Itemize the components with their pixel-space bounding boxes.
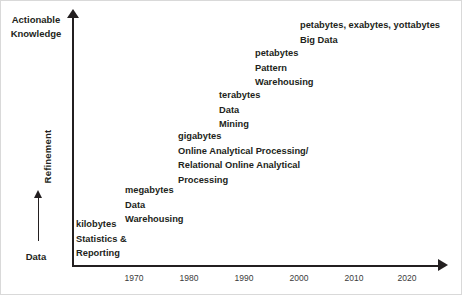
stage-petabytes-line-1: petabytes bbox=[255, 46, 314, 61]
x-tick-2000: 2000 bbox=[290, 273, 309, 283]
x-tick-1970: 1970 bbox=[125, 273, 144, 283]
stage-bigdata: petabytes, exabytes, yottabytes Big Data bbox=[300, 18, 440, 47]
stage-gigabytes-line-4: Processing bbox=[178, 173, 308, 188]
stage-megabytes: megabytes Data Warehousing bbox=[125, 183, 184, 227]
stage-megabytes-line-3: Warehousing bbox=[125, 212, 184, 227]
stage-terabytes-line-3: Mining bbox=[219, 117, 260, 132]
data-refinement-timeline-figure: Actionable Knowledge Data Refinement kil… bbox=[0, 0, 462, 295]
stage-petabytes-line-3: Warehousing bbox=[255, 75, 314, 90]
stage-kilobytes-line-3: Reporting bbox=[76, 246, 127, 261]
x-tick-2020: 2020 bbox=[398, 273, 417, 283]
y-axis-top-label-line-1: Actionable bbox=[12, 14, 61, 25]
stage-gigabytes: gigabytes Online Analytical Processing/ … bbox=[178, 129, 308, 187]
stage-terabytes: terabytes Data Mining bbox=[219, 88, 260, 132]
x-axis-line bbox=[72, 265, 440, 267]
x-tick-1990: 1990 bbox=[235, 273, 254, 283]
refinement-arrow-icon bbox=[34, 190, 42, 198]
stage-gigabytes-line-3: Relational Online Analytical bbox=[178, 158, 308, 173]
stage-terabytes-line-1: terabytes bbox=[219, 88, 260, 103]
stage-gigabytes-line-2: Online Analytical Processing/ bbox=[178, 144, 308, 159]
stage-kilobytes-line-2: Statistics & bbox=[76, 232, 127, 247]
y-axis-bottom-label: Data bbox=[7, 251, 65, 262]
x-tick-1980: 1980 bbox=[180, 273, 199, 283]
refinement-arrow-shaft bbox=[38, 197, 39, 241]
stage-kilobytes: kilobytes Statistics & Reporting bbox=[76, 217, 127, 261]
stage-terabytes-line-2: Data bbox=[219, 103, 260, 118]
y-axis-top-label: Actionable Knowledge bbox=[7, 13, 65, 40]
x-tick-2010: 2010 bbox=[345, 273, 364, 283]
stage-petabytes-line-2: Pattern bbox=[255, 61, 314, 76]
y-axis-line bbox=[72, 17, 74, 267]
stage-bigdata-line-2: Big Data bbox=[300, 33, 440, 48]
y-axis-top-label-line-2: Knowledge bbox=[11, 28, 62, 39]
stage-kilobytes-line-1: kilobytes bbox=[76, 217, 127, 232]
y-axis-arrow-icon bbox=[67, 9, 79, 18]
stage-megabytes-line-1: megabytes bbox=[125, 183, 184, 198]
stage-megabytes-line-2: Data bbox=[125, 198, 184, 213]
stage-bigdata-line-1: petabytes, exabytes, yottabytes bbox=[300, 18, 440, 33]
refinement-axis-label: Refinement bbox=[42, 107, 53, 207]
stage-petabytes: petabytes Pattern Warehousing bbox=[255, 46, 314, 90]
x-axis-arrow-icon bbox=[438, 259, 448, 271]
